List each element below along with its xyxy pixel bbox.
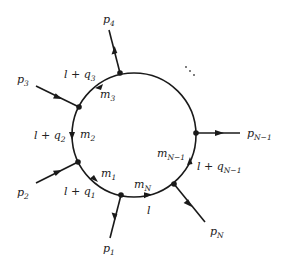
label-l-plus-q3: l + q3 xyxy=(64,68,96,83)
label-p1: p1 xyxy=(103,242,115,257)
arrow-pN-icon xyxy=(184,199,192,207)
feynman-loop-diagram: p4 p3 p2 p1 pN pN−1 l + q3 l + q2 l + q1… xyxy=(0,0,281,271)
label-pN-1: pN−1 xyxy=(247,127,272,142)
label-p2: p2 xyxy=(17,186,29,201)
label-m1: m1 xyxy=(101,167,116,182)
vertex-p2 xyxy=(75,159,81,165)
label-p3: p3 xyxy=(17,73,29,88)
ellipsis-dots xyxy=(185,66,195,76)
vertex-pN xyxy=(171,181,177,187)
arrow-pN-1-icon xyxy=(215,130,224,136)
vertex-p1 xyxy=(118,192,124,198)
label-p4: p4 xyxy=(103,13,115,28)
vertex-p4 xyxy=(117,70,123,76)
label-pN: pN xyxy=(210,225,224,240)
vertex-pN-1 xyxy=(193,130,199,136)
arrow-p4-icon xyxy=(112,46,118,55)
label-l: l xyxy=(147,204,151,217)
label-l-plus-q2: l + q2 xyxy=(34,129,66,144)
arrow-p3-icon xyxy=(53,93,62,99)
label-mN-1: mN−1 xyxy=(157,147,185,162)
vertex-p3 xyxy=(76,104,82,110)
label-l-plus-qN-1: l + qN−1 xyxy=(197,160,241,175)
arrow-p2-icon xyxy=(53,170,62,176)
label-m2: m2 xyxy=(80,128,95,143)
label-mN: mN xyxy=(134,178,151,193)
label-m3: m3 xyxy=(100,88,115,103)
arrow-loop-q2-icon xyxy=(69,132,75,140)
label-l-plus-q1: l + q1 xyxy=(64,185,96,200)
